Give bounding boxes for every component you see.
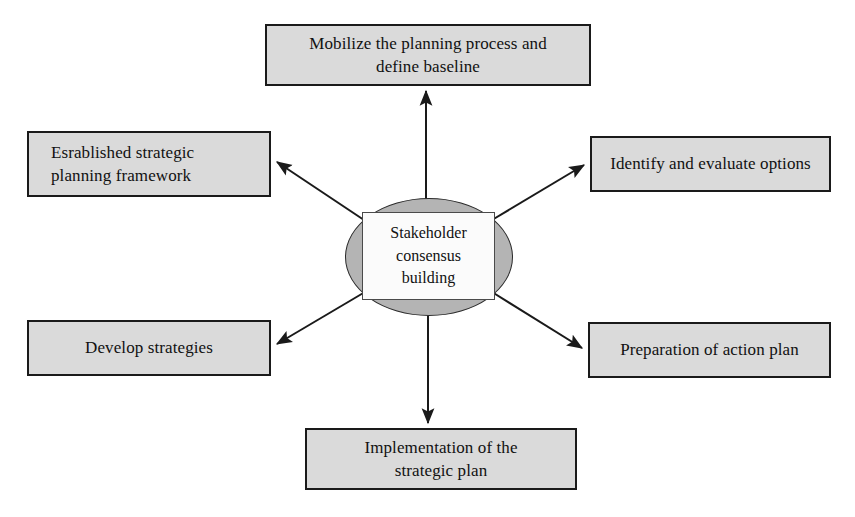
node-implementation-of-strategic-plan[interactable]: Implementation of the strategic plan <box>305 428 577 490</box>
diagram-canvas: Mobilize the planning process and define… <box>0 0 855 517</box>
node-established-label: Esrablished strategic planning framework <box>51 141 194 188</box>
connector-center-to-develop <box>277 292 365 344</box>
node-identify-label: Identify and evaluate options <box>610 152 811 175</box>
node-preparation-of-action-plan[interactable]: Preparation of action plan <box>588 322 831 378</box>
connector-center-to-established <box>277 162 364 220</box>
center-node-stakeholder-consensus-building[interactable]: Stakeholder consensus building <box>362 212 495 300</box>
center-node-label: Stakeholder consensus building <box>390 222 466 290</box>
connector-center-to-preparation <box>492 292 582 348</box>
node-mobilize-planning-process[interactable]: Mobilize the planning process and define… <box>265 24 591 86</box>
node-identify-and-evaluate-options[interactable]: Identify and evaluate options <box>590 136 831 192</box>
connector-center-to-identify <box>492 165 584 220</box>
node-develop-label: Develop strategies <box>85 336 213 359</box>
node-mobilize-label: Mobilize the planning process and define… <box>309 32 546 79</box>
node-develop-strategies[interactable]: Develop strategies <box>27 320 271 376</box>
node-established-strategic-planning-framework[interactable]: Esrablished strategic planning framework <box>27 131 271 197</box>
node-preparation-label: Preparation of action plan <box>620 338 799 361</box>
node-implementation-label: Implementation of the strategic plan <box>364 436 517 483</box>
